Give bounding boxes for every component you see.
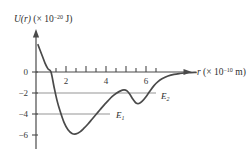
x-tick-label-4: 4 [104,76,109,86]
potential-energy-curve-chart: 2 4 6 0 −2 −4 −6 U(r) (× 10−20 J) r (× 1… [0,0,251,149]
y-tick-label-m2: −2 [18,88,28,98]
x-axis-title: r (× 10−10 m) [197,67,246,78]
energy-label-E1-subscript: 1 [122,115,125,121]
y-tick-label-m4: −4 [18,109,28,119]
x-tick-label-2: 2 [64,76,69,86]
y-axis-title-close: J) [63,14,72,25]
y-axis-title-symbol: U(r) [14,14,31,25]
x-axis-title-close: m) [233,67,246,78]
x-axis-title-open: (× 10 [201,67,224,78]
y-tick-label-0: 0 [24,67,29,77]
y-axis-title-exponent: −20 [54,14,63,20]
x-axis-title-exponent: −10 [223,67,232,73]
y-axis-title-open: (× 10 [31,14,54,25]
y-axis-title: U(r) (× 10−20 J) [14,14,72,25]
x-tick-label-6: 6 [144,76,149,86]
y-tick-label-m6: −6 [18,130,28,140]
energy-label-E2-subscript: 2 [167,96,170,102]
